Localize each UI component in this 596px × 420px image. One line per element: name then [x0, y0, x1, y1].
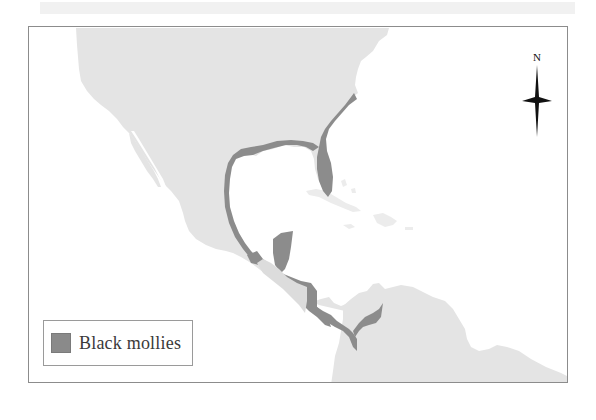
compass-star-icon: [517, 61, 557, 147]
land-bahamas: [341, 179, 356, 193]
top-faint-band: [40, 2, 575, 14]
land-jamaica: [343, 224, 355, 229]
legend-swatch-black-mollies: [51, 333, 71, 353]
range-yucatan: [273, 231, 293, 273]
land-north-america: [76, 28, 389, 311]
compass-north-arrow: N: [517, 51, 557, 137]
legend-label-black-mollies: Black mollies: [79, 333, 181, 354]
land-hispaniola: [373, 213, 397, 227]
land-south-america: [331, 283, 568, 383]
land-puerto-rico: [405, 227, 413, 230]
map-legend: Black mollies: [43, 320, 193, 366]
